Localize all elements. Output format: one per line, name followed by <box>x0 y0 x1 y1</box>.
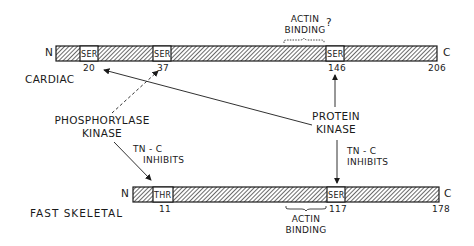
phosphorylase-kinase-line1: PHOSPHORYLASE <box>52 115 152 126</box>
tnc-inhibits-left-line2: INHIBITS <box>143 155 184 166</box>
tnc-inhibits-left-line1: TN - C <box>133 144 162 155</box>
arrow-phosphorylase-kinase-to-ser37 <box>112 71 158 113</box>
skeletal-n-terminus: N <box>121 188 129 199</box>
skeletal-site-2-residue: SER <box>328 190 345 201</box>
cardiac-label: CARDIAC <box>25 74 74 85</box>
cardiac-site-2-position: 37 <box>157 63 169 74</box>
cardiac-site-1-residue: SER <box>81 49 98 60</box>
cardiac-site-1-position: 20 <box>83 63 95 74</box>
cardiac-site-3-position: 146 <box>328 63 346 74</box>
cardiac-c-terminus: C <box>443 47 451 58</box>
skeletal-c-terminus: C <box>444 188 452 199</box>
protein-kinase-line1: PROTEIN <box>308 111 364 122</box>
skeletal-actin-binding-brace <box>286 206 326 211</box>
cardiac-actin-binding-brace <box>284 38 324 43</box>
tnc-inhibits-right-line2: INHIBITS <box>347 157 388 168</box>
cardiac-actin-binding-line2: BINDING <box>280 25 330 36</box>
skeletal-end-position: 178 <box>432 204 450 215</box>
skeletal-site-1-position: 11 <box>159 204 171 215</box>
skeletal-site-2-position: 117 <box>329 204 347 215</box>
tnc-inhibits-right-line1: TN - C <box>347 146 376 157</box>
cardiac-site-3-residue: SER <box>327 49 344 60</box>
skeletal-actin-binding-line2: BINDING <box>281 225 331 236</box>
skeletal-site-1-residue: THR <box>154 190 171 201</box>
skeletal-actin-binding-line1: ACTIN <box>284 214 328 225</box>
cardiac-site-2-residue: SER <box>154 49 171 60</box>
cardiac-actin-binding-question: ? <box>326 17 332 28</box>
cardiac-n-terminus: N <box>45 47 53 58</box>
phosphorylase-kinase-line2: KINASE <box>52 128 152 139</box>
protein-kinase-line2: KINASE <box>308 124 364 135</box>
cardiac-actin-binding-line1: ACTIN <box>282 14 328 25</box>
fast-skeletal-sequence-bar <box>133 187 439 202</box>
fast-skeletal-label: FAST SKELETAL <box>30 208 123 219</box>
cardiac-end-position: 206 <box>428 63 446 74</box>
cardiac-sequence-bar <box>56 46 437 61</box>
